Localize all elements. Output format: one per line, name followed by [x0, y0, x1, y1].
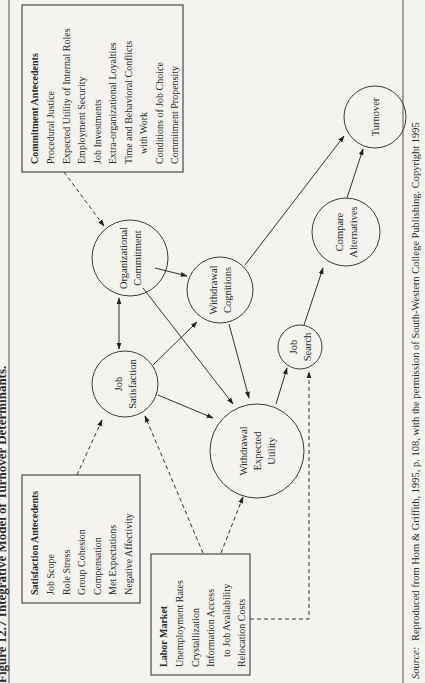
edge-withdrawal-cognitions-to-withdrawal-expected-utility	[229, 324, 249, 398]
satisfaction-item: Compensation	[92, 537, 103, 595]
job-search-label-line: Search	[302, 332, 313, 361]
withdrawal-cognitions-circle	[187, 257, 253, 323]
satisfaction-antecedents-heading: Satisfaction Antecedents	[29, 491, 40, 595]
edge-compare-alternatives-to-turnover	[347, 149, 363, 198]
edge-org-commitment-to-withdrawal-expected-utility	[143, 288, 233, 404]
labor-market-content: Labor Market Unemployment Rates Crystall…	[158, 580, 247, 667]
labor-market-item: Relocation Costs	[236, 599, 247, 667]
figure-title-text: Figure 12.7 Integrative Model of Turnove…	[0, 366, 9, 683]
commitment-item: Conditions of Job Choice	[154, 61, 165, 164]
commitment-item: Time and Behavioral Conflicts	[123, 41, 134, 164]
withdrawal-expected-utility-label-line: Expected	[252, 431, 263, 471]
node-organizational-commitment: Organizational Commitment	[92, 220, 168, 296]
edge-labor-market-to-job-search	[250, 372, 309, 619]
labor-market-heading: Labor Market	[158, 605, 169, 667]
figure-title: Figure 12.7 Integrative Model of Turnove…	[0, 366, 9, 683]
withdrawal-expected-utility-label-line: Utility	[266, 437, 277, 465]
withdrawal-cognitions-label-line: Withdrawal	[208, 265, 219, 314]
labor-market-item: Information Access	[205, 589, 216, 667]
labor-market-item: to Job Availability	[221, 584, 232, 657]
node-compare-alternatives: Compare Alternatives	[312, 198, 380, 266]
commitment-antecedents-heading: Commitment Antecedents	[29, 53, 40, 164]
commitment-item: Job Investments	[92, 99, 103, 164]
edge-job-satisfaction-to-withdrawal-expected-utility	[158, 395, 213, 418]
compare-alternatives-label-line: Alternatives	[348, 206, 359, 257]
node-job-search: Job Search	[278, 325, 322, 369]
labor-market-item: Crystallization	[190, 608, 201, 667]
turnover-model-diagram: Figure 12.7 Integrative Model of Turnove…	[0, 0, 425, 683]
satisfaction-item: Role Stress	[61, 550, 72, 595]
node-job-satisfaction: Job Satisfaction	[92, 351, 158, 417]
svg-text:Source: Reproduced from: Source: Reproduced from Hom & Griffith, …	[410, 122, 421, 679]
satisfaction-antecedents-content: Satisfaction Antecedents Job Scope Role …	[29, 491, 134, 595]
commitment-item: Employment Security	[76, 77, 87, 165]
labor-market-item: Unemployment Rates	[174, 580, 185, 667]
node-withdrawal-cognitions: Withdrawal Cognitions	[187, 257, 253, 323]
job-search-circle	[278, 325, 322, 369]
withdrawal-cognitions-label-line: Cognitions	[222, 267, 233, 313]
edge-job-search-to-compare-alternatives	[304, 268, 323, 325]
satisfaction-item: Met Expectations	[107, 525, 118, 595]
job-satisfaction-label-line: Job	[113, 377, 124, 392]
turnover-label: Turnover	[370, 97, 381, 136]
node-turnover: Turnover	[344, 86, 406, 148]
commitment-item: Procedural Justice	[45, 90, 56, 164]
commitment-item: Commitment Propensity	[169, 66, 180, 164]
commitment-item: with Work	[138, 112, 149, 154]
job-satisfaction-label-line: Satisfaction	[127, 358, 138, 408]
edge-org-commitment-to-withdrawal-cognitions	[155, 268, 187, 276]
compare-alternatives-label-line: Compare	[334, 212, 345, 251]
withdrawal-expected-utility-label-line: Withdrawal	[238, 426, 249, 475]
edge-withdrawal-expected-utility-to-job-search	[276, 368, 287, 404]
edge-withdrawal-cognitions-to-turnover	[245, 136, 344, 265]
caption-source-label: Source:	[410, 647, 421, 679]
org-commitment-label-line: Organizational	[118, 227, 129, 289]
commitment-antecedents-content: Commitment Antecedents Procedural Justic…	[29, 28, 180, 164]
org-commitment-circle	[92, 220, 168, 296]
satisfaction-item: Group Cohesion	[76, 529, 87, 595]
compare-alternatives-circle	[312, 198, 380, 266]
source-caption: Source: Reproduced from Hom & Griffith, …	[410, 122, 421, 679]
job-satisfaction-circle	[92, 351, 158, 417]
commitment-item: Extra-organizational Loyalties	[107, 42, 118, 164]
org-commitment-label-line: Commitment	[132, 230, 143, 286]
commitment-item: Expected Utility of Internal Roles	[61, 28, 72, 164]
edge-commitment-antecedents-to-org-commitment	[64, 172, 104, 226]
job-search-label-line: Job	[288, 340, 299, 355]
satisfaction-item: Job Scope	[45, 554, 56, 595]
satisfaction-item: Negative Affectivity	[123, 513, 134, 595]
edge-labor-market-to-withdrawal-expected-utility	[221, 497, 243, 553]
caption-text: Reproduced from Hom & Griffith, 1995, p.…	[410, 122, 421, 641]
edge-satisfaction-antecedents-to-job-satisfaction	[77, 420, 102, 475]
node-withdrawal-expected-utility: Withdrawal Expected Utility	[210, 404, 304, 498]
edge-labor-market-to-job-satisfaction	[145, 416, 203, 553]
